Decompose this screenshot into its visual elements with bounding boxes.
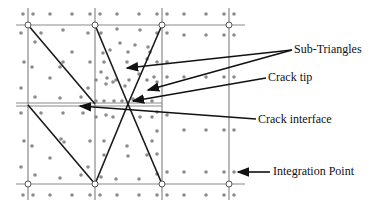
integration-point-dot: [133, 43, 137, 47]
integration-point-dot: [150, 115, 154, 119]
label-sub-triangles: Sub-Triangles: [294, 42, 362, 56]
integration-point-dot: [150, 139, 154, 143]
integration-point-dot: [30, 144, 34, 148]
integration-point-dot: [86, 165, 90, 169]
integration-point-dot: [138, 115, 142, 119]
integration-point-dot: [125, 60, 129, 64]
integration-point-dot: [104, 82, 108, 86]
integration-point-dot: [165, 170, 169, 174]
integration-point-dot: [204, 75, 208, 79]
integration-point-dot: [62, 140, 66, 144]
integration-point-dot: [115, 27, 119, 31]
integration-point-dot: [21, 193, 25, 197]
element-grid: [16, 8, 245, 200]
integration-point-dot: [102, 99, 106, 103]
label-integration-point: Integration Point: [273, 164, 354, 178]
integration-point-dot: [39, 111, 43, 115]
integration-point-dot: [232, 75, 236, 79]
integration-point-dot: [58, 176, 62, 180]
integration-point-dot: [123, 84, 127, 88]
integration-point-dot: [222, 33, 226, 37]
integration-point-dot: [61, 60, 65, 64]
integration-point-dot: [105, 76, 109, 80]
integration-point-dot: [111, 80, 115, 84]
integration-point-dot: [118, 41, 122, 45]
integration-point-dot: [150, 99, 154, 103]
integration-point-dot: [232, 12, 236, 16]
integration-point-dot: [33, 95, 37, 99]
integration-point-dot: [58, 96, 62, 100]
integration-point-dot: [88, 60, 92, 64]
integration-point-dot: [145, 153, 149, 157]
integration-point-dot: [21, 12, 25, 16]
integration-point-dot: [70, 50, 74, 54]
integration-point-dot: [165, 75, 169, 79]
integration-point-dot: [108, 48, 112, 52]
integration-point-dot: [120, 99, 124, 103]
integration-point-dot: [19, 86, 23, 90]
integration-point-dot: [155, 12, 159, 16]
integration-point-dot: [137, 177, 141, 181]
integration-point-dot: [98, 193, 102, 197]
integration-point-dot: [86, 86, 90, 90]
integration-point-dot: [48, 193, 52, 197]
integration-point-dot: [79, 95, 83, 99]
integration-point-dot: [70, 12, 74, 16]
arrow-crack-interface: [80, 106, 256, 119]
crack-interface-line: [16, 103, 162, 106]
integration-point-dot: [31, 12, 35, 16]
integration-point-dot: [146, 45, 150, 49]
integration-point-dot: [115, 193, 119, 197]
integration-point-dot: [125, 144, 129, 148]
integration-point-dot: [222, 12, 226, 16]
integration-point-dot: [88, 193, 92, 197]
label-crack-tip: Crack tip: [268, 70, 312, 84]
label-crack-interface: Crack interface: [258, 112, 332, 126]
integration-point-dot: [98, 12, 102, 16]
integration-point-dot: [155, 193, 159, 197]
integration-point-dot: [30, 65, 34, 69]
integration-point-dot: [165, 12, 169, 16]
integration-point-dot: [61, 111, 65, 115]
integration-point-dot: [115, 12, 119, 16]
integration-point-dot: [182, 128, 186, 132]
integration-point-dot: [204, 193, 208, 197]
integration-point-dot: [137, 12, 141, 16]
integration-point-dot: [182, 12, 186, 16]
integration-point-dot: [88, 12, 92, 16]
integration-point-dot: [137, 193, 141, 197]
integration-point-dot: [126, 154, 130, 158]
integration-point-dot: [112, 99, 116, 103]
integration-point-dot: [111, 115, 115, 119]
arrow-sub-triangle-1: [127, 50, 292, 68]
integration-point-dot: [58, 65, 62, 69]
integration-point-dot: [102, 139, 106, 143]
integration-point-dot: [182, 75, 186, 79]
integration-point-dot: [182, 193, 186, 197]
integration-point-dot: [165, 193, 169, 197]
integration-point-dot: [22, 139, 26, 143]
integration-point-dot: [86, 31, 90, 35]
integration-point-dot: [99, 31, 103, 35]
leader-arrows: [80, 50, 292, 172]
integration-point-dot: [39, 31, 43, 35]
integration-point-dot: [232, 170, 236, 174]
integration-point-dot: [232, 193, 236, 197]
integration-point-dot: [222, 75, 226, 79]
integration-point-dot: [33, 173, 37, 177]
crack-element-diagram: [0, 0, 370, 217]
integration-point-dot: [222, 128, 226, 132]
integration-point-dot: [81, 111, 85, 115]
integration-point-dot: [126, 50, 130, 54]
integration-point-dot: [138, 28, 142, 32]
integration-point-dot: [155, 60, 159, 64]
integration-point-dot: [22, 60, 26, 64]
integration-point-dot: [222, 170, 226, 174]
integration-point-dot: [102, 60, 106, 64]
integration-point-dot: [232, 128, 236, 132]
integration-point-dot: [182, 33, 186, 37]
integration-point-dot: [79, 173, 83, 177]
integration-point-dot: [102, 153, 106, 157]
integration-point-dot: [204, 33, 208, 37]
integration-point-dot: [204, 12, 208, 16]
